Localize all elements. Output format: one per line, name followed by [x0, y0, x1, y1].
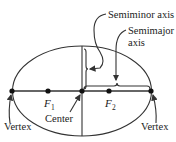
semimajor-axis-label-line1: Semimajor — [128, 25, 175, 36]
focus2-point — [106, 88, 111, 93]
vertex-left-arrow — [9, 95, 11, 123]
focus2-label: F — [104, 97, 112, 109]
focus1-subscript: 1 — [51, 103, 55, 112]
focus1-point — [45, 88, 50, 93]
vertex-right-label: Vertex — [141, 121, 169, 132]
vertex-left-point — [9, 88, 14, 93]
semiminor-leader — [90, 14, 106, 69]
vertex-left-label: Vertex — [4, 121, 32, 132]
focus2-subscript: 2 — [112, 103, 116, 112]
ellipse-diagram: Semiminor axis Semimajor axis F 1 F 2 Ce… — [0, 0, 176, 142]
semiminor-axis-label: Semiminor axis — [108, 9, 174, 20]
semimajor-axis-label-line2: axis — [128, 37, 145, 48]
semiminor-brace — [84, 49, 88, 89]
focus1-label: F — [43, 97, 51, 109]
semimajor-brace — [84, 83, 150, 89]
vertex-right-point — [148, 88, 153, 93]
center-arrow — [70, 95, 80, 112]
center-label: Center — [45, 113, 73, 124]
vertex-right-arrow — [153, 95, 156, 123]
center-point — [79, 88, 84, 93]
